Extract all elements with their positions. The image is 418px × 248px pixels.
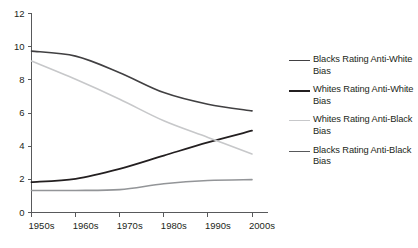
legend-swatch-icon	[289, 120, 310, 121]
series-line	[32, 180, 253, 191]
line-chart: 024681012 1950s1960s1970s1980s1990s2000s…	[0, 0, 418, 248]
x-axis-tick-label: 1980s	[161, 220, 187, 231]
legend-item[interactable]: Blacks Rating Anti-Black Bias	[289, 145, 415, 168]
legend-swatch-icon	[289, 90, 310, 92]
y-axis-tick-label: 10	[14, 41, 25, 52]
y-axis-tick-label: 12	[14, 8, 25, 19]
legend-item-label: Blacks Rating Anti-Black Bias	[313, 145, 415, 168]
legend-item-label: Blacks Rating Anti-White Bias	[313, 54, 415, 77]
y-axis-tick-label: 8	[19, 74, 24, 85]
data-series-group	[32, 51, 253, 190]
y-axis-tick-label: 6	[19, 107, 24, 118]
series-line	[32, 51, 253, 111]
series-line	[32, 131, 253, 182]
x-axis-tick-label: 1960s	[73, 220, 99, 231]
y-axis-tick-label: 4	[19, 140, 24, 151]
y-axis-tick-label: 0	[19, 207, 24, 218]
legend-swatch-icon	[289, 60, 310, 61]
legend-item[interactable]: Blacks Rating Anti-White Bias	[289, 54, 415, 77]
x-axis-tick-label: 1970s	[117, 220, 143, 231]
x-axis-ticks: 1950s1960s1970s1980s1990s2000s	[29, 213, 276, 231]
chart-legend: Blacks Rating Anti-White BiasWhites Rati…	[289, 54, 415, 175]
legend-item[interactable]: Whites Rating Anti-Black Bias	[289, 114, 415, 137]
axes	[32, 13, 269, 213]
x-axis-tick-label: 2000s	[249, 220, 275, 231]
legend-item-label: Whites Rating Anti-White Bias	[313, 84, 415, 107]
y-axis-ticks: 024681012	[14, 8, 32, 218]
legend-item[interactable]: Whites Rating Anti-White Bias	[289, 84, 415, 107]
y-axis-tick-label: 2	[19, 173, 24, 184]
x-axis-tick-label: 1990s	[205, 220, 231, 231]
legend-swatch-icon	[289, 151, 310, 152]
legend-item-label: Whites Rating Anti-Black Bias	[313, 114, 415, 137]
x-axis-tick-label: 1950s	[29, 220, 55, 231]
